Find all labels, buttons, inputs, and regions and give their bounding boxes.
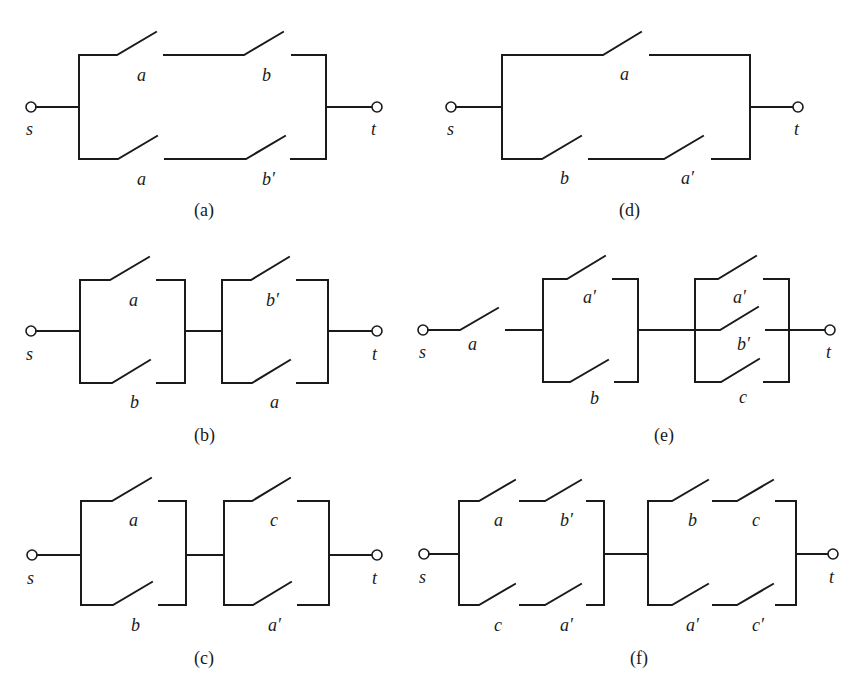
switch-icon (81, 478, 151, 501)
terminal-t (372, 102, 382, 112)
switch-label: c′ (752, 615, 765, 635)
sink-label: t (372, 568, 378, 588)
switch-label: b (131, 615, 140, 635)
switch-label: a′ (268, 615, 282, 635)
caption: (c) (194, 648, 214, 669)
switch-label: b′ (266, 290, 280, 310)
switch-icon (695, 359, 759, 382)
terminal-s (418, 325, 428, 335)
source-label: s (27, 568, 34, 588)
switch-label: a′ (560, 615, 574, 635)
switch-icon (79, 32, 156, 55)
source-label: s (26, 119, 33, 139)
circuit-c: s t a b c a′ (c) (27, 478, 382, 669)
switch-icon (713, 480, 773, 501)
caption: (f) (630, 648, 648, 669)
terminal-t (372, 326, 382, 336)
switch-icon (80, 257, 149, 280)
switch-icon (695, 256, 756, 279)
caption: (a) (194, 200, 214, 221)
switch-icon (222, 360, 290, 383)
switch-label: a (468, 334, 477, 354)
terminal-s (26, 326, 36, 336)
switch-icon (80, 360, 150, 383)
switch-icon (459, 584, 515, 605)
switch-icon (713, 584, 773, 605)
terminal-t (828, 549, 838, 559)
terminal-s (26, 102, 36, 112)
sink-label: t (372, 344, 378, 364)
switch-label: b (560, 168, 569, 188)
terminal-s (419, 549, 429, 559)
caption: (d) (619, 200, 640, 221)
switch-label: c (752, 510, 760, 530)
switch-icon (502, 136, 581, 159)
terminal-s (27, 550, 37, 560)
switch-icon (543, 360, 608, 382)
source-label: s (447, 119, 454, 139)
circuit-a: s t a b a b′ (a) (26, 32, 382, 221)
switch-label: a (129, 290, 138, 310)
switch-label: a (494, 510, 503, 530)
source-label: s (26, 344, 33, 364)
source-label: s (419, 567, 426, 587)
switch-label: b′ (262, 169, 276, 189)
switch-icon (79, 136, 157, 159)
switch-label: a (620, 64, 629, 84)
switch-icon (165, 136, 285, 159)
caption: (e) (654, 425, 674, 446)
switch-label: a (270, 392, 279, 412)
switch-label: b′ (560, 510, 574, 530)
circuit-e: s t a a′ b a′ b′ c (e) (418, 256, 835, 446)
switch-label: b (688, 510, 697, 530)
switch-icon (648, 480, 708, 501)
switch-label: a′ (681, 168, 695, 188)
terminal-t (372, 550, 382, 560)
terminal-s (446, 102, 456, 112)
caption: (b) (194, 425, 215, 446)
switch-label: a′ (686, 615, 700, 635)
switch-label: c (494, 615, 502, 635)
switch-label: a (137, 65, 146, 85)
switch-icon (164, 32, 283, 55)
terminal-t (825, 325, 835, 335)
sink-label: t (794, 119, 800, 139)
switch-icon (222, 257, 289, 280)
terminal-t (793, 102, 803, 112)
switch-icon (543, 256, 605, 279)
switch-icon (81, 582, 152, 605)
switch-label: c (739, 387, 747, 407)
sink-label: t (826, 342, 832, 362)
switch-icon (520, 584, 581, 605)
switch-label: a′ (583, 287, 597, 307)
circuit-b: s t a b b′ a (b) (26, 257, 382, 446)
switch-icon (648, 584, 708, 605)
switch-icon (224, 582, 291, 605)
switch-label: b (130, 392, 139, 412)
switch-icon (520, 480, 581, 501)
switch-label: c (270, 510, 278, 530)
source-label: s (419, 342, 426, 362)
switch-label: b (590, 388, 599, 408)
switch-icon (224, 478, 290, 501)
circuit-d: s t a b a′ (d) (446, 32, 803, 221)
switch-label: b (262, 65, 271, 85)
sink-label: t (371, 119, 377, 139)
switch-icon (428, 308, 498, 330)
switch-icon (589, 136, 703, 159)
switch-label: a (129, 510, 138, 530)
switch-label: b′ (737, 334, 751, 354)
switch-label: a′ (733, 287, 747, 307)
sink-label: t (829, 567, 835, 587)
switch-icon (695, 307, 758, 330)
switch-icon (502, 32, 641, 55)
switch-icon (459, 480, 515, 501)
circuit-f: s t a b′ c a′ b c a′ c′ (f) (419, 480, 838, 669)
switch-label: a (137, 169, 146, 189)
